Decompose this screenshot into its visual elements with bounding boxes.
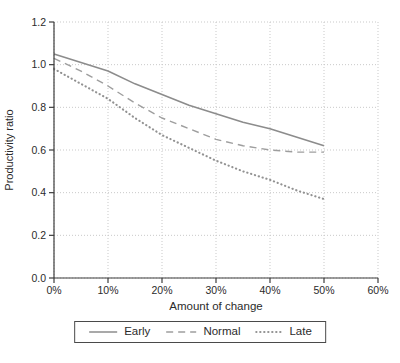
chart-figure: 0.00.20.40.60.81.01.20%10%20%30%40%50%60…	[0, 0, 400, 363]
legend-label-late: Late	[289, 326, 311, 338]
early-line-swatch	[88, 328, 118, 336]
legend-item-early: Early	[88, 326, 150, 338]
legend: Early Normal Late	[74, 321, 326, 343]
y-tick-label: 1.0	[31, 58, 46, 70]
legend-item-late: Late	[255, 326, 311, 338]
legend-item-normal: Normal	[165, 326, 240, 338]
x-tick-label: 60%	[367, 284, 388, 296]
normal-line-swatch	[165, 328, 197, 336]
y-tick-label: 0.0	[31, 272, 46, 284]
y-tick-label: 1.2	[31, 16, 46, 28]
x-axis-label: Amount of change	[169, 300, 262, 312]
line-chart: 0.00.20.40.60.81.01.20%10%20%30%40%50%60…	[0, 0, 400, 318]
legend-label-early: Early	[124, 326, 150, 338]
x-tick-label: 0%	[46, 284, 61, 296]
y-tick-label: 0.4	[31, 186, 46, 198]
series-line-late	[54, 69, 324, 199]
x-tick-label: 40%	[259, 284, 280, 296]
x-tick-label: 20%	[151, 284, 172, 296]
series-layer	[54, 54, 324, 199]
late-line-swatch	[255, 328, 283, 336]
x-tick-label: 50%	[313, 284, 334, 296]
x-tick-label: 10%	[97, 284, 118, 296]
y-tick-label: 0.6	[31, 144, 46, 156]
y-tick-label: 0.8	[31, 101, 46, 113]
grid-layer	[54, 22, 378, 278]
y-axis-label: Productivity ratio	[3, 109, 15, 190]
legend-label-normal: Normal	[203, 326, 240, 338]
y-tick-label: 0.2	[31, 229, 46, 241]
axis-layer: 0.00.20.40.60.81.01.20%10%20%30%40%50%60…	[31, 16, 388, 297]
x-tick-label: 30%	[205, 284, 226, 296]
series-line-early	[54, 54, 324, 146]
